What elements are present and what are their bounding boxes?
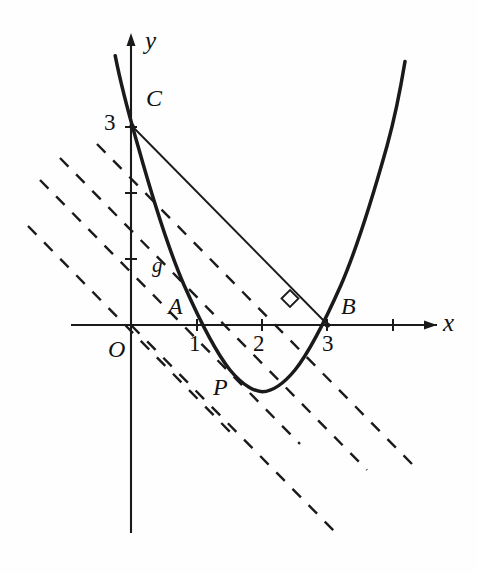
curve-label-g: g — [152, 255, 163, 276]
point-C-label: C — [146, 86, 162, 110]
figure-canvas — [0, 0, 477, 573]
origin-label: O — [108, 337, 125, 361]
dashed-line-5 — [131, 325, 340, 537]
x-tick-label-2: 2 — [253, 332, 265, 355]
dashed-parallel-lines — [28, 144, 412, 537]
point-B-label: B — [341, 294, 356, 318]
y-tick-label-3: 3 — [104, 111, 116, 134]
x-axis-arrow — [424, 321, 437, 330]
x-tick-label-3: 3 — [322, 332, 334, 355]
geometry-figure: y x O C 3 g A 1 2 3 B P — [0, 0, 477, 573]
x-axis-label: x — [443, 310, 454, 335]
dashed-line-3 — [60, 158, 367, 470]
point-B-dot — [325, 322, 330, 327]
y-axis-label: y — [145, 28, 156, 53]
point-A-label: A — [168, 294, 183, 318]
point-P-label: P — [213, 375, 228, 399]
x-tick-label-1: 1 — [189, 332, 201, 355]
y-axis-arrow — [127, 33, 136, 46]
point-C-dot — [129, 123, 134, 128]
dashed-line-4 — [97, 144, 412, 464]
